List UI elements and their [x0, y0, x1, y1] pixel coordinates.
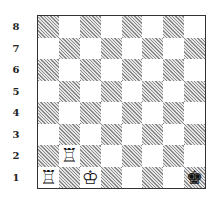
square-c7[interactable] — [80, 38, 101, 60]
square-a1[interactable]: ♖ — [38, 167, 59, 189]
square-e7[interactable] — [122, 38, 143, 60]
black-king-icon[interactable]: ♚ — [186, 168, 203, 187]
rank-label-5: 5 — [8, 81, 24, 103]
square-b5[interactable] — [59, 81, 80, 103]
square-e6[interactable] — [122, 59, 143, 81]
square-c5[interactable] — [80, 81, 101, 103]
rank-label-7: 7 — [8, 38, 24, 60]
square-c3[interactable] — [80, 124, 101, 146]
square-c1[interactable]: ♔ — [80, 167, 101, 189]
square-d7[interactable] — [101, 38, 122, 60]
square-d6[interactable] — [101, 59, 122, 81]
square-a5[interactable] — [38, 81, 59, 103]
square-b2[interactable]: ♖ — [59, 145, 80, 167]
square-d2[interactable] — [101, 145, 122, 167]
square-g6[interactable] — [163, 59, 184, 81]
rank-label-8: 8 — [8, 16, 24, 38]
square-h8[interactable] — [184, 16, 205, 38]
square-h6[interactable] — [184, 59, 205, 81]
square-f2[interactable] — [142, 145, 163, 167]
square-h3[interactable] — [184, 124, 205, 146]
chess-board: ♖♖♔♚ — [37, 15, 206, 189]
rank-label-4: 4 — [8, 102, 24, 124]
square-a6[interactable] — [38, 59, 59, 81]
square-g5[interactable] — [163, 81, 184, 103]
square-b8[interactable] — [59, 16, 80, 38]
square-h7[interactable] — [184, 38, 205, 60]
square-a7[interactable] — [38, 38, 59, 60]
square-g3[interactable] — [163, 124, 184, 146]
square-a3[interactable] — [38, 124, 59, 146]
square-a8[interactable] — [38, 16, 59, 38]
square-g1[interactable] — [163, 167, 184, 189]
rank-label-2: 2 — [8, 145, 24, 167]
square-h1[interactable]: ♚ — [184, 167, 205, 189]
square-e2[interactable] — [122, 145, 143, 167]
square-e4[interactable] — [122, 102, 143, 124]
rank-label-1: 1 — [8, 167, 24, 189]
square-b7[interactable] — [59, 38, 80, 60]
square-c4[interactable] — [80, 102, 101, 124]
square-d1[interactable] — [101, 167, 122, 189]
square-d5[interactable] — [101, 81, 122, 103]
square-b3[interactable] — [59, 124, 80, 146]
square-f6[interactable] — [142, 59, 163, 81]
square-c2[interactable] — [80, 145, 101, 167]
square-a4[interactable] — [38, 102, 59, 124]
square-b4[interactable] — [59, 102, 80, 124]
square-e1[interactable] — [122, 167, 143, 189]
square-e3[interactable] — [122, 124, 143, 146]
square-c8[interactable] — [80, 16, 101, 38]
square-g2[interactable] — [163, 145, 184, 167]
square-d3[interactable] — [101, 124, 122, 146]
square-f8[interactable] — [142, 16, 163, 38]
square-f4[interactable] — [142, 102, 163, 124]
rank-label-6: 6 — [8, 59, 24, 81]
square-b6[interactable] — [59, 59, 80, 81]
square-h2[interactable] — [184, 145, 205, 167]
square-g7[interactable] — [163, 38, 184, 60]
rank-label-3: 3 — [8, 124, 24, 146]
square-f1[interactable] — [142, 167, 163, 189]
white-king-icon[interactable]: ♔ — [82, 168, 99, 187]
square-f3[interactable] — [142, 124, 163, 146]
square-h4[interactable] — [184, 102, 205, 124]
square-g8[interactable] — [163, 16, 184, 38]
square-d8[interactable] — [101, 16, 122, 38]
square-h5[interactable] — [184, 81, 205, 103]
square-g4[interactable] — [163, 102, 184, 124]
square-f7[interactable] — [142, 38, 163, 60]
square-d4[interactable] — [101, 102, 122, 124]
square-a2[interactable] — [38, 145, 59, 167]
square-e8[interactable] — [122, 16, 143, 38]
square-e5[interactable] — [122, 81, 143, 103]
white-rook-icon[interactable]: ♖ — [40, 168, 57, 187]
white-rook-icon[interactable]: ♖ — [61, 146, 78, 165]
square-f5[interactable] — [142, 81, 163, 103]
square-b1[interactable] — [59, 167, 80, 189]
square-c6[interactable] — [80, 59, 101, 81]
